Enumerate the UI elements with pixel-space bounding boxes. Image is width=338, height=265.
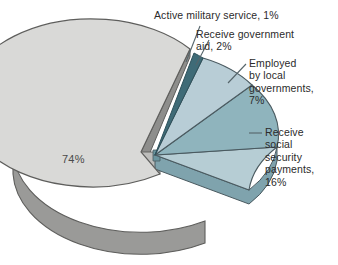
pie-chart: Active military service, 1% Receive gove…	[0, 0, 338, 265]
social-security-label: Receive social security payments, 16%	[265, 126, 314, 188]
government-aid-label: Receive government aid, 2%	[196, 28, 294, 53]
main-slice-value-label: 74%	[62, 153, 85, 165]
local-government-label: Employed by local governments, 7%	[249, 57, 314, 107]
military-service-label: Active military service, 1%	[154, 9, 279, 21]
